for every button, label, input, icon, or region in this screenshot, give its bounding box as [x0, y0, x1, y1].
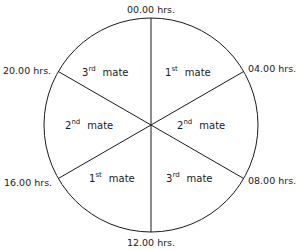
sector-label-s3: 3rdmate [166, 171, 213, 184]
time-label-t1600: 16.00 hrs. [4, 177, 52, 188]
sector-labels: 1stmate2ndmate3rdmate1stmate2ndmate3rdma… [65, 65, 225, 184]
watch-circle-diagram: 00.00 hrs.04.00 hrs.08.00 hrs.12.00 hrs.… [0, 0, 304, 250]
time-label-t1200: 12.00 hrs. [127, 237, 175, 248]
sector-label-s4: 1stmate [89, 171, 135, 184]
time-label-t0000: 00.00 hrs. [127, 4, 175, 15]
sector-label-s1: 1stmate [165, 65, 211, 78]
spoke-line [58, 72, 151, 126]
sector-label-s2: 2ndmate [177, 118, 225, 131]
sector-label-s5: 2ndmate [65, 118, 113, 131]
spoke-line [151, 72, 244, 126]
time-label-t0800: 08.00 hrs. [248, 175, 296, 186]
time-label-t0400: 04.00 hrs. [248, 63, 296, 74]
spoke-line [58, 125, 151, 179]
spoke-line [151, 125, 244, 179]
time-label-t2000: 20.00 hrs. [3, 65, 51, 76]
sector-label-s6: 3rdmate [82, 65, 129, 78]
